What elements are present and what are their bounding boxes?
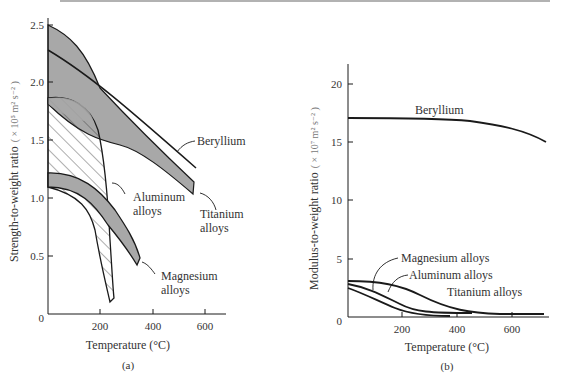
label-magnesium-b: Magnesium alloys [401, 251, 490, 265]
panel-a: 2.5 2.0 1.5 1.0 0.5 0 200 400 600 Temper… [7, 18, 246, 372]
x-tick-label: 400 [145, 320, 162, 332]
y-tick-label: 2.0 [30, 76, 44, 88]
figure: 2.5 2.0 1.5 1.0 0.5 0 200 400 600 Temper… [0, 0, 562, 380]
y-tick-label: 0.5 [30, 250, 44, 262]
label-aluminum-a: Aluminum [133, 190, 186, 204]
x-axis-title-a: Temperature (°C) [86, 338, 170, 352]
y-tick-label: 10 [331, 194, 343, 206]
label-aluminum-a-2: alloys [133, 204, 162, 218]
x-axis-title-b: Temperature (°C) [405, 340, 489, 354]
label-titanium-a-2: alloys [200, 221, 229, 235]
label-aluminum-b: Aluminum alloys [409, 268, 493, 282]
y-axis-title-a: Strength-to-weight ratio( × 10⁵ m² s⁻² ) [7, 81, 21, 262]
y-tick-label: 2.5 [30, 19, 44, 31]
panel-caption-b: (b) [441, 360, 454, 373]
x-tick-label: 200 [92, 320, 109, 332]
y-tick-label: 1.5 [30, 134, 44, 146]
y-tick-label: 0 [337, 315, 343, 327]
label-beryllium-a: Beryllium [197, 134, 246, 148]
panel-caption-a: (a) [122, 359, 135, 372]
y-tick-label: 1.0 [30, 192, 44, 204]
label-magnesium-a: Magnesium [161, 269, 218, 283]
y-axis-title-b: Modulus-to-weight ratio( × 10⁷ m² s⁻² ) [307, 107, 321, 290]
beryllium-curve-b [348, 118, 546, 142]
label-magnesium-a-2: alloys [161, 283, 190, 297]
label-beryllium-b: Beryllium [415, 103, 464, 117]
y-tick-label: 0 [39, 312, 45, 324]
label-titanium-b: Titanium alloys [447, 285, 523, 299]
panel-b: 20 15 10 5 0 200 400 600 Temperature (°C… [307, 64, 549, 373]
x-tick-label: 200 [394, 323, 411, 335]
y-tick-label: 15 [331, 136, 343, 148]
x-tick-label: 400 [449, 323, 466, 335]
label-titanium-a: Titanium [200, 207, 244, 221]
y-tick-label: 5 [337, 253, 343, 265]
y-tick-label: 20 [331, 78, 343, 90]
x-tick-label: 600 [504, 323, 521, 335]
x-tick-label: 600 [197, 320, 214, 332]
